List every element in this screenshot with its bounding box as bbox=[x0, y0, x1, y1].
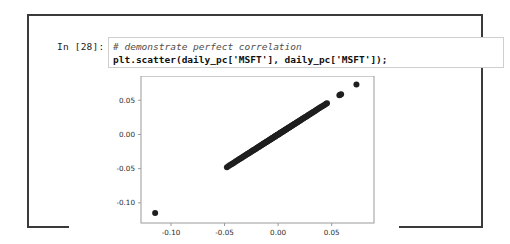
x-tick-label: 0.05 bbox=[324, 228, 340, 237]
scatter-plot-svg: -0.10-0.050.000.05 0.050.00-0.05-0.10 bbox=[69, 76, 399, 236]
code-statement-line: plt.scatter(daily_pc['MSFT'], daily_pc['… bbox=[113, 53, 499, 66]
x-axis-ticks: -0.10-0.050.000.05 bbox=[162, 223, 340, 236]
scatter-point bbox=[353, 81, 359, 87]
scatter-point bbox=[152, 210, 158, 216]
code-input-box[interactable]: # demonstrate perfect correlation plt.sc… bbox=[108, 37, 504, 68]
notebook-cell: In [28]: # demonstrate perfect correlati… bbox=[27, 14, 483, 228]
y-tick-label: -0.10 bbox=[116, 198, 135, 207]
scatter-point bbox=[338, 91, 344, 97]
y-tick-label: 0.00 bbox=[119, 130, 135, 139]
scatter-point bbox=[324, 100, 330, 106]
x-tick-label: -0.05 bbox=[215, 228, 234, 237]
y-tick-label: -0.05 bbox=[116, 164, 135, 173]
code-comment-line: # demonstrate perfect correlation bbox=[113, 40, 499, 53]
y-tick-label: 0.05 bbox=[119, 96, 135, 105]
y-axis-ticks: 0.050.00-0.05-0.10 bbox=[116, 96, 141, 208]
scatter-plot-output: -0.10-0.050.000.05 0.050.00-0.05-0.10 bbox=[69, 76, 399, 236]
input-prompt-label: In [28]: bbox=[57, 41, 104, 53]
x-tick-label: -0.10 bbox=[162, 228, 181, 237]
x-tick-label: 0.00 bbox=[270, 228, 286, 237]
